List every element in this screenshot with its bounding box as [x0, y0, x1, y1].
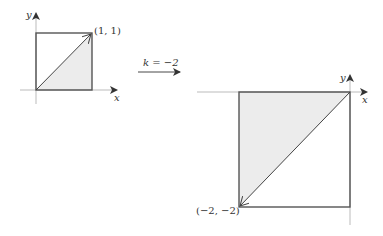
- transform: k = −2: [138, 57, 180, 72]
- scaling-diagram: y x (1, 1) k = −2 y x (−2, −2): [0, 0, 383, 236]
- left-diagram: y x (1, 1): [20, 9, 121, 104]
- right-x-label: x: [362, 94, 368, 105]
- left-x-label: x: [114, 92, 120, 103]
- right-diagram: y x (−2, −2): [196, 72, 368, 225]
- left-y-label: y: [25, 9, 32, 20]
- left-point-label: (1, 1): [94, 25, 121, 36]
- transform-label: k = −2: [143, 57, 179, 68]
- right-point-label: (−2, −2): [196, 205, 240, 216]
- right-y-label: y: [339, 72, 346, 83]
